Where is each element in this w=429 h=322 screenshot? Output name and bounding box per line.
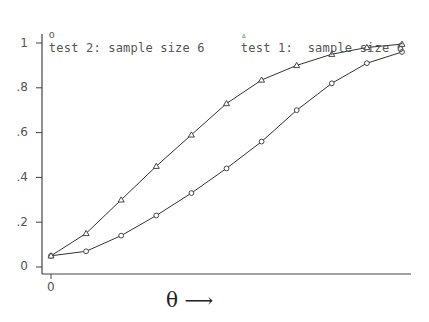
- ytick-label-0.2: .2: [4, 215, 28, 229]
- series-line: [51, 52, 402, 256]
- triangle-marker-icon: ▵: [241, 29, 247, 40]
- legend-label-test2: test 2: sample size 6: [49, 41, 205, 55]
- legend-item-test1: ▵ test 1: sample size 6: [226, 13, 404, 55]
- series-lines: [51, 44, 402, 256]
- circle-marker-icon: [189, 191, 194, 196]
- legend-item-test2: o test 2: sample size 6: [34, 13, 205, 55]
- circle-marker-icon: [329, 81, 334, 86]
- circle-marker-icon: [259, 139, 264, 144]
- ytick-label-0.4: .4: [4, 170, 28, 184]
- y-ticks: [36, 43, 42, 267]
- ytick-label-0.8: .8: [4, 80, 28, 94]
- x-axis-label: θ ⟶: [166, 288, 213, 312]
- circle-marker-icon: [119, 233, 124, 238]
- series-markers: [48, 41, 405, 258]
- circle-marker-icon: o: [49, 29, 55, 40]
- triangle-marker-icon: [224, 100, 230, 105]
- series-line: [51, 44, 402, 256]
- circle-marker-icon: [154, 213, 159, 218]
- circle-marker-icon: [84, 249, 89, 254]
- circle-marker-icon: [365, 61, 370, 66]
- circle-marker-icon: [224, 166, 229, 171]
- circle-marker-icon: [294, 108, 299, 113]
- ytick-label-0.6: .6: [4, 125, 28, 139]
- ytick-label-0: 0: [4, 259, 28, 273]
- xtick-label-0: 0: [47, 280, 55, 294]
- legend-label-test1: test 1: sample size 6: [241, 41, 404, 55]
- ytick-label-1: 1: [4, 36, 28, 50]
